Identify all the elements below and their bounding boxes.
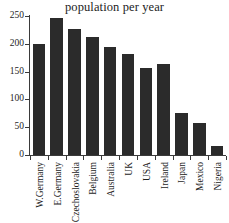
bar: [211, 146, 223, 155]
bar-chart: population per year 050100150200250 W.Ge…: [0, 0, 229, 223]
x-axis-tick: [208, 156, 209, 160]
bar: [140, 68, 152, 155]
y-axis-tick-value: 0: [0, 150, 24, 160]
x-axis-label-text: Czechoslovakia: [71, 162, 81, 222]
y-axis-tick-label: 250: [0, 11, 24, 21]
y-axis-tick-label: 100: [0, 94, 24, 104]
y-axis-tick-value: 250: [0, 11, 24, 21]
x-axis-tick: [119, 156, 120, 160]
bar: [122, 54, 134, 155]
x-axis-label-text: Japan: [177, 162, 187, 184]
x-axis-tick: [48, 156, 49, 160]
x-axis-tick: [66, 156, 67, 160]
x-axis-label-text: E.Germany: [53, 162, 63, 206]
y-axis-tick-value: 200: [0, 39, 24, 49]
y-axis-tick-value: 50: [0, 122, 24, 132]
x-axis-label-text: Mexico: [195, 162, 205, 191]
x-axis-label-text: Ireland: [160, 162, 170, 189]
bar: [33, 44, 45, 155]
x-axis-label-text: UK: [124, 162, 134, 176]
bar: [193, 123, 205, 155]
x-axis-label-text: Nigeria: [213, 162, 223, 191]
x-axis-tick: [137, 156, 138, 160]
x-axis-tick: [155, 156, 156, 160]
x-axis-line: [29, 155, 226, 156]
x-axis-tick: [226, 156, 227, 160]
x-axis-tick: [190, 156, 191, 160]
x-axis-tick: [101, 156, 102, 160]
bar: [157, 64, 169, 155]
x-axis-label-text: Belgium: [88, 162, 98, 195]
bar: [50, 18, 62, 155]
bar: [175, 113, 187, 155]
y-axis-tick-label: 200: [0, 39, 24, 49]
x-axis-label-text: W.Germany: [35, 162, 45, 208]
bar: [68, 29, 80, 155]
y-axis-tick-value: 100: [0, 94, 24, 104]
y-axis-tick-label: 50: [0, 122, 24, 132]
y-axis-tick-label: 150: [0, 67, 24, 77]
bar: [104, 47, 116, 155]
x-axis-label: Nigeria: [213, 162, 229, 222]
x-axis-label-text: USA: [142, 162, 152, 181]
x-axis-tick: [83, 156, 84, 160]
chart-title: population per year: [0, 0, 229, 15]
plot-area: [30, 16, 226, 155]
bar: [86, 37, 98, 155]
x-axis-tick: [173, 156, 174, 160]
y-axis-tick-value: 150: [0, 67, 24, 77]
x-axis-label-text: Australia: [106, 162, 116, 197]
y-axis-tick-label: 0: [0, 150, 24, 160]
x-axis-tick: [30, 156, 31, 160]
